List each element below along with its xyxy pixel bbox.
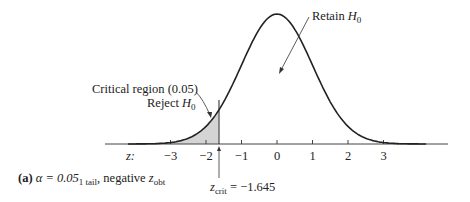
critical-arrowhead [207,112,212,118]
critical-arrow [196,92,210,115]
retain-label: Retain H0 [312,10,361,25]
zcrit-label: zcrit = −1.645 [210,181,275,196]
retain-arrowhead [279,67,284,74]
normal-curve [128,14,426,144]
tick-label: −2 [199,150,212,163]
retain-arrow [281,17,309,70]
tick-label: 1 [309,150,315,163]
critical-region-label: Critical region (0.05) [92,83,198,96]
tick-label: 0 [274,150,280,163]
reject-label: Reject H0 [147,97,196,112]
tick-label: 3 [380,150,386,163]
zcrit-arrowhead [217,146,221,151]
tick-label: −1 [235,150,248,163]
figure-caption: (a) α = 0.051 tail, negative zobt [18,172,165,187]
z-axis-label: z: [126,150,135,163]
tick-label: −3 [164,150,177,163]
tick-label: 2 [345,150,351,163]
